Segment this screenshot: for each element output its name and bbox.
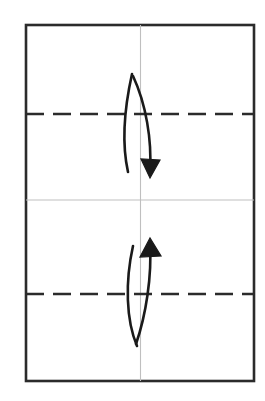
fold-diagram-svg [0, 0, 265, 401]
origami-diagram-canvas [0, 0, 265, 401]
